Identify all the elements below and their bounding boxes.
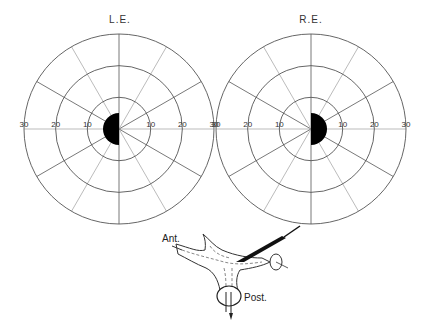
posterior-label: Post. [244, 292, 267, 303]
anterior-label: Ant. [162, 233, 180, 244]
left-eye-field: 302010102030 [20, 34, 219, 224]
tick-label: 20 [178, 120, 187, 129]
meridian-line [119, 129, 201, 177]
tick-label: 20 [243, 120, 252, 129]
visual-field-charts: 302010102030302010102030 [0, 0, 430, 329]
meridian-line [119, 47, 167, 129]
blind-spot [311, 113, 327, 145]
blind-spot [103, 113, 119, 145]
tick-label: 30 [402, 120, 411, 129]
right-eye-field: 302010102030 [212, 34, 411, 224]
meridian-line [119, 82, 201, 130]
meridian-line [229, 82, 311, 130]
meridian-line [119, 129, 167, 211]
canal-diagram [172, 226, 300, 320]
tick-label: 20 [370, 120, 379, 129]
tick-label: 30 [212, 120, 221, 129]
meridian-line [229, 129, 311, 177]
tick-label: 10 [146, 120, 155, 129]
tick-label: 20 [51, 120, 60, 129]
tick-label: 10 [275, 120, 284, 129]
meridian-line [264, 47, 312, 129]
tick-label: 10 [83, 120, 92, 129]
meridian-line [264, 129, 312, 211]
tick-label: 10 [338, 120, 347, 129]
tick-label: 30 [20, 120, 29, 129]
